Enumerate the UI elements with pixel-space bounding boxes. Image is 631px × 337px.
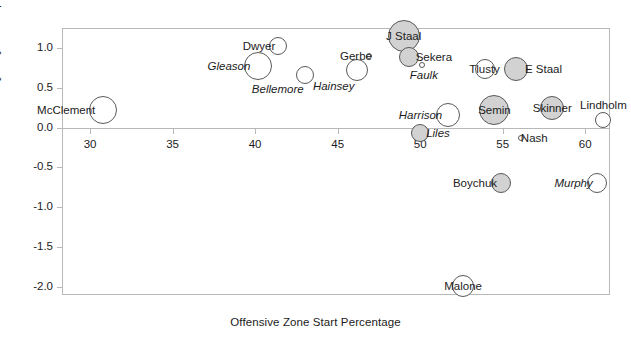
x-tick-label: 60 — [565, 138, 605, 150]
y-tick-label: 0.5 — [0, 81, 53, 93]
x-tick-mark — [503, 129, 504, 134]
y-tick-label: -1.5 — [0, 240, 53, 252]
y-tick-mark — [57, 207, 62, 208]
y-tick-label: 0.0 — [0, 121, 53, 133]
y-tick-label: -1.0 — [0, 200, 53, 212]
x-tick-mark — [338, 129, 339, 134]
data-point-label: J Staal — [386, 30, 421, 42]
data-point-label: Tlusty — [469, 63, 500, 75]
data-point-bubble — [419, 62, 425, 68]
x-tick-mark — [173, 129, 174, 134]
data-point-label: Nash — [521, 132, 548, 144]
data-point-label: McClement — [37, 104, 95, 116]
y-tick-mark — [57, 167, 62, 168]
data-point-bubble — [296, 66, 314, 84]
data-point-label: E Staal — [525, 63, 562, 75]
y-tick-mark — [57, 48, 62, 49]
x-tick-mark — [90, 129, 91, 134]
y-tick-mark — [57, 247, 62, 248]
x-tick-mark — [255, 129, 256, 134]
x-tick-label: 55 — [483, 138, 523, 150]
data-point-label: Murphy — [554, 177, 592, 189]
x-tick-label: 45 — [318, 138, 358, 150]
data-point-label: Malone — [444, 280, 482, 292]
x-tick-label: 40 — [235, 138, 275, 150]
data-point-label: Gerbe — [340, 50, 372, 62]
y-tick-mark — [57, 88, 62, 89]
data-point-label: Boychuk — [453, 177, 497, 189]
y-tick-label: 1.0 — [0, 41, 53, 53]
data-point-label: Faulk — [410, 69, 438, 81]
y-tick-label: -0.5 — [0, 160, 53, 172]
data-point-label: Gleason — [208, 60, 251, 72]
y-tick-label: -2.0 — [0, 280, 53, 292]
data-point-label: Skinner — [533, 102, 572, 114]
data-point-label: Dwyer — [243, 40, 276, 52]
data-point-label: Harrison — [399, 109, 442, 121]
data-point-label: Hainsey — [313, 80, 355, 92]
data-point-label: Liles — [426, 127, 450, 139]
zero-axis-line — [62, 128, 610, 129]
data-point-label: Semin — [478, 104, 511, 116]
x-tick-mark — [585, 129, 586, 134]
x-tick-label: 30 — [70, 138, 110, 150]
x-tick-label: 35 — [153, 138, 193, 150]
data-point-label: Bellemore — [252, 83, 304, 95]
scatter-chart: Quality of Competition Offensive Zone St… — [0, 0, 631, 337]
y-tick-mark — [57, 287, 62, 288]
data-point-label: Lindholm — [580, 99, 627, 111]
x-axis-title: Offensive Zone Start Percentage — [0, 316, 631, 328]
